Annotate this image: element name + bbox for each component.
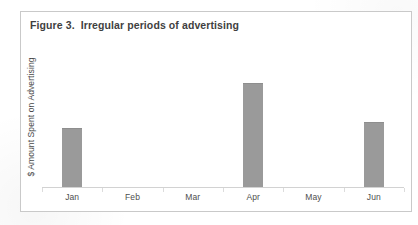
x-tick-label-apr: Apr bbox=[223, 192, 283, 202]
y-axis-title: $ Amount Spent on Advertising bbox=[23, 46, 39, 188]
x-tick-label-feb: Feb bbox=[102, 192, 162, 202]
bar-slot bbox=[102, 42, 162, 187]
x-axis-tick bbox=[283, 188, 284, 192]
y-axis-title-text: $ Amount Spent on Advertising bbox=[26, 57, 36, 176]
x-axis-tick bbox=[102, 188, 103, 192]
x-tick-label-mar: Mar bbox=[163, 192, 223, 202]
x-tick-label-jun: Jun bbox=[344, 192, 404, 202]
x-axis-tick bbox=[42, 188, 43, 192]
bar-jun[interactable] bbox=[364, 122, 384, 187]
x-axis-tick-labels: JanFebMarAprMayJun bbox=[42, 192, 404, 208]
plot-area bbox=[42, 42, 404, 187]
x-axis-tick bbox=[223, 188, 224, 192]
bar-slot bbox=[42, 42, 102, 187]
bar-series bbox=[42, 42, 404, 187]
bar-slot bbox=[283, 42, 343, 187]
bar-slot bbox=[163, 42, 223, 187]
bar-jan[interactable] bbox=[62, 128, 82, 187]
figure-container: Figure 3. Irregular periods of advertisi… bbox=[0, 0, 418, 225]
x-axis-tick bbox=[344, 188, 345, 192]
x-axis-tick bbox=[404, 188, 405, 192]
bar-slot bbox=[344, 42, 404, 187]
figure-title: Figure 3. Irregular periods of advertisi… bbox=[30, 19, 239, 31]
bar-apr[interactable] bbox=[243, 83, 263, 187]
x-tick-label-jan: Jan bbox=[42, 192, 102, 202]
x-axis-tick bbox=[163, 188, 164, 192]
x-tick-label-may: May bbox=[283, 192, 343, 202]
bar-slot bbox=[223, 42, 283, 187]
